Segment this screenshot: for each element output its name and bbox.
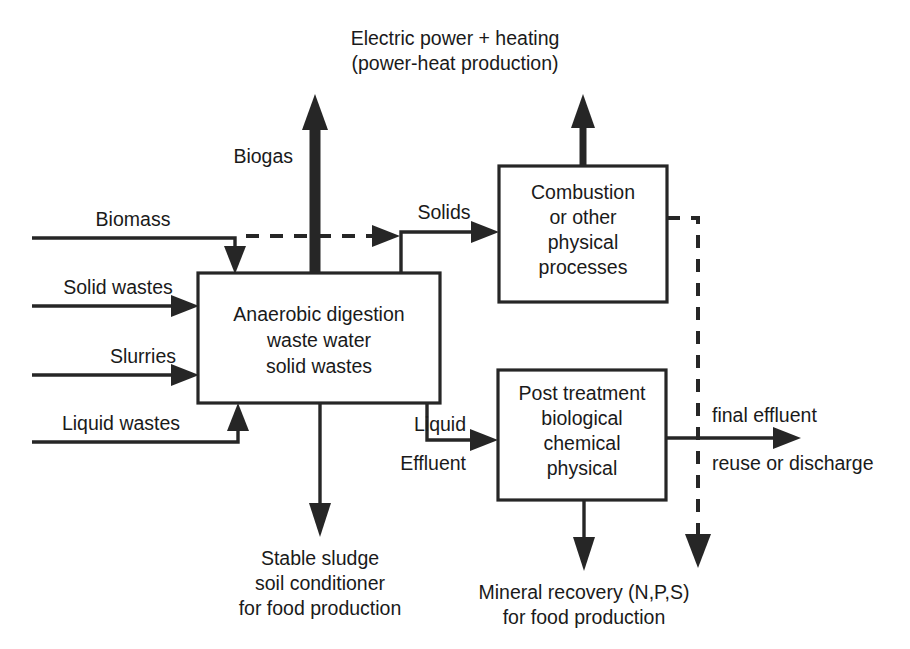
biomass-input-arrow (32, 238, 246, 274)
stable-sludge-line3: for food production (239, 597, 402, 619)
final-effluent-arrow (666, 427, 801, 449)
diagram-canvas: Electric power + heating (power-heat pro… (0, 0, 910, 649)
stable-sludge-arrow (309, 403, 331, 537)
final-effluent-label: final effluent (712, 404, 817, 426)
biomass-bypass-arrowhead (372, 225, 400, 247)
electric-power-caption-line1: Electric power + heating (351, 27, 560, 49)
liquid-label: Liquid (414, 413, 466, 435)
solid-wastes-label: Solid wastes (63, 276, 173, 298)
post-treatment-box-line2: biological (541, 407, 622, 429)
post-treatment-box-line4: physical (547, 457, 617, 479)
solid-wastes-input-arrow (32, 295, 199, 317)
slurries-input-arrow (32, 364, 199, 386)
biogas-arrow (302, 94, 328, 273)
combustion-output-arrow (571, 94, 595, 166)
slurries-label: Slurries (110, 345, 176, 367)
digester-box-line3: solid wastes (266, 355, 372, 377)
biomass-label: Biomass (96, 208, 171, 230)
reuse-or-discharge-label: reuse or discharge (712, 452, 874, 474)
solids-flow-arrow (401, 221, 499, 273)
combustion-box-line2: or other (549, 206, 617, 228)
process-flow-diagram: Electric power + heating (power-heat pro… (0, 0, 910, 649)
combustion-recycle-dashed-arrow (667, 218, 711, 568)
stable-sludge-line2: soil conditioner (255, 572, 386, 594)
effluent-label: Effluent (400, 452, 466, 474)
digester-box-line1: Anaerobic digestion (233, 303, 404, 325)
mineral-recovery-arrow (573, 500, 595, 571)
combustion-box-line3: physical (548, 231, 618, 253)
mineral-recovery-line2: for food production (503, 606, 666, 628)
electric-power-caption-line2: (power-heat production) (351, 52, 558, 74)
post-treatment-box-line1: Post treatment (519, 382, 646, 404)
stable-sludge-line1: Stable sludge (261, 547, 379, 569)
solids-label: Solids (417, 201, 470, 223)
mineral-recovery-line1: Mineral recovery (N,P,S) (479, 581, 690, 603)
liquid-wastes-label: Liquid wastes (62, 412, 180, 434)
post-treatment-box-line3: chemical (544, 432, 621, 454)
combustion-box-line4: processes (539, 256, 628, 278)
combustion-box-line1: Combustion (531, 181, 635, 203)
digester-box-line2: waste water (266, 329, 372, 351)
biogas-label: Biogas (233, 145, 293, 167)
